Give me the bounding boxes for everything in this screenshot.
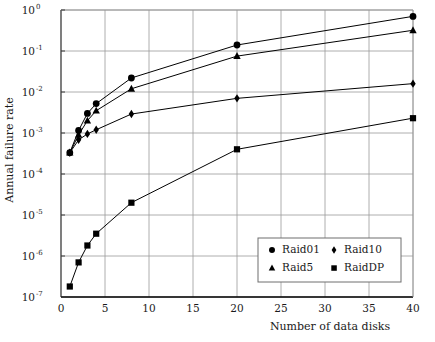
y-tick-label: 10 bbox=[22, 127, 35, 139]
y-tick-label: 10 bbox=[22, 291, 35, 303]
data-point-marker-circle bbox=[234, 42, 241, 49]
y-tick-exponent: -1 bbox=[36, 44, 43, 52]
data-point-marker-square bbox=[76, 259, 82, 265]
x-tick-label: 0 bbox=[58, 302, 65, 314]
y-tick-label: 10 bbox=[22, 209, 35, 221]
data-point-marker-circle bbox=[128, 75, 135, 82]
data-point-marker-square bbox=[234, 146, 240, 152]
x-tick-label: 25 bbox=[274, 302, 287, 314]
chart-figure: 0510152025303540 10010-110-210-310-410-5… bbox=[0, 0, 435, 342]
y-tick-exponent: -4 bbox=[36, 167, 43, 175]
chart-legend[interactable]: Raid01Raid10Raid5RaidDP bbox=[258, 238, 401, 282]
data-point-marker-square bbox=[93, 231, 99, 237]
legend-label: Raid01 bbox=[282, 243, 320, 255]
y-tick-label: 10 bbox=[22, 4, 35, 16]
data-point-marker-square bbox=[67, 283, 73, 289]
y-tick-exponent: -3 bbox=[36, 126, 43, 134]
legend-label: Raid10 bbox=[344, 243, 382, 255]
data-point-marker-circle bbox=[269, 247, 275, 253]
x-tick-label: 40 bbox=[406, 302, 419, 314]
failure-rate-line-chart: 0510152025303540 10010-110-210-310-410-5… bbox=[0, 0, 435, 342]
y-tick-exponent: -5 bbox=[36, 208, 43, 216]
x-tick-label: 15 bbox=[186, 302, 199, 314]
x-tick-label: 10 bbox=[142, 302, 155, 314]
y-axis-title: Annual failure rate bbox=[3, 97, 16, 204]
y-tick-label: 10 bbox=[22, 45, 35, 57]
x-tick-label: 35 bbox=[362, 302, 375, 314]
y-tick-label: 10 bbox=[22, 168, 35, 180]
x-tick-label: 5 bbox=[102, 302, 109, 314]
x-tick-label: 20 bbox=[230, 302, 243, 314]
data-point-marker-square bbox=[410, 115, 416, 121]
legend-label: Raid5 bbox=[282, 261, 313, 273]
y-tick-exponent: 0 bbox=[36, 3, 40, 11]
x-tick-label: 30 bbox=[318, 302, 331, 314]
y-tick-exponent: -7 bbox=[36, 290, 43, 298]
y-tick-label: 10 bbox=[22, 86, 35, 98]
y-tick-exponent: -2 bbox=[36, 85, 43, 93]
data-point-marker-circle bbox=[410, 13, 417, 20]
data-point-marker-square bbox=[331, 265, 337, 271]
legend-label: RaidDP bbox=[344, 261, 384, 273]
data-point-marker-circle bbox=[84, 110, 91, 117]
data-point-marker-circle bbox=[93, 100, 100, 107]
y-tick-exponent: -6 bbox=[36, 249, 43, 257]
data-point-marker-square bbox=[84, 242, 90, 248]
y-tick-label: 10 bbox=[22, 250, 35, 262]
x-axis-title: Number of data disks bbox=[270, 320, 391, 333]
data-point-marker-square bbox=[128, 200, 134, 206]
